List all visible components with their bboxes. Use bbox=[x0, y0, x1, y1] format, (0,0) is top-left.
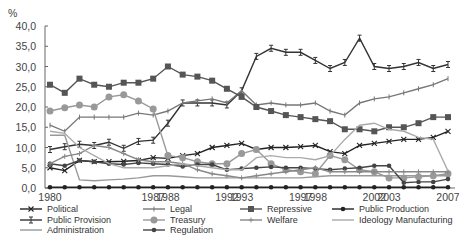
y-tick-label: 5,0 bbox=[21, 162, 36, 174]
legend-label: Public Production bbox=[359, 204, 429, 214]
y-tick-label: 10,0 bbox=[16, 142, 37, 154]
legend-item-treasury: Treasury bbox=[143, 215, 206, 225]
legend-label: Regulation bbox=[170, 225, 213, 235]
y-tick-label: 25,0 bbox=[16, 81, 37, 93]
y-tick-label: 30,0 bbox=[16, 61, 37, 73]
y-tick-label: 0,0 bbox=[21, 182, 36, 194]
y-tick-label: 40,0 bbox=[16, 20, 37, 32]
line-chart: %0,05,010,015,020,025,030,035,040,0 1980… bbox=[0, 0, 459, 243]
legend-label: Ideology Manufacturing bbox=[359, 215, 453, 225]
y-tick-label: 20,0 bbox=[16, 101, 37, 113]
y-tick-label: 35,0 bbox=[16, 40, 37, 52]
y-axis: %0,05,010,015,020,025,030,035,040,0 bbox=[8, 7, 48, 194]
y-unit-label: % bbox=[8, 7, 17, 19]
x-tick-label: 1998 bbox=[304, 191, 328, 203]
x-tick-label: 1988 bbox=[156, 191, 180, 203]
legend-label: Political bbox=[47, 204, 78, 214]
x-tick-label: 2007 bbox=[436, 191, 459, 203]
legend-item-ideology-manufacturing: Ideology Manufacturing bbox=[332, 215, 453, 225]
x-tick-label: 1980 bbox=[38, 191, 62, 203]
series-lines bbox=[47, 35, 452, 189]
legend-label: Administration bbox=[47, 225, 104, 235]
legend: PoliticalLegalRepressivePublic Productio… bbox=[20, 204, 453, 235]
x-axis: 1980198719881992199319971998200220032007 bbox=[38, 188, 459, 203]
legend-item-legal: Legal bbox=[143, 204, 192, 214]
y-tick-label: 15,0 bbox=[16, 121, 37, 133]
legend-item-regulation: Regulation bbox=[143, 225, 213, 235]
x-tick-label: 2003 bbox=[377, 191, 401, 203]
legend-label: Repressive bbox=[267, 204, 312, 214]
legend-label: Public Provision bbox=[47, 215, 111, 225]
legend-item-political: Political bbox=[20, 204, 78, 214]
legend-label: Treasury bbox=[170, 215, 206, 225]
legend-item-repressive: Repressive bbox=[240, 204, 312, 214]
legend-label: Welfare bbox=[267, 215, 298, 225]
legend-item-public-production: Public Production bbox=[332, 204, 429, 214]
x-tick-label: 1993 bbox=[230, 191, 254, 203]
legend-item-administration: Administration bbox=[20, 225, 104, 235]
series-public-production bbox=[48, 185, 451, 190]
legend-label: Legal bbox=[170, 204, 192, 214]
legend-item-welfare: Welfare bbox=[240, 215, 298, 225]
legend-item-public-provision: Public Provision bbox=[20, 215, 111, 225]
